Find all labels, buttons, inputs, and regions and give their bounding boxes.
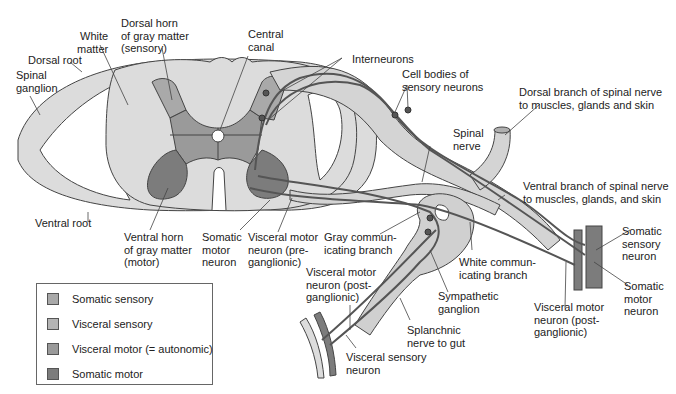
label-interneurons: Interneurons xyxy=(352,53,414,66)
central-canal xyxy=(212,130,224,142)
swatch-visceral-sensory xyxy=(47,318,59,330)
label-central-canal: Central canal xyxy=(248,28,283,53)
label-somatic-sensory-neuron-right: Somatic sensory neuron xyxy=(622,225,662,263)
label-sympathetic-ganglion: Sympathetic ganglion xyxy=(438,290,499,315)
label-ventral-horn: Ventral horn of gray matter (motor) xyxy=(124,231,192,269)
label-white-comm-branch: White commun- icating branch xyxy=(459,256,536,281)
legend-label: Visceral motor (= autonomic) xyxy=(72,343,213,355)
label-somatic-motor-neuron-right: Somatic motor neuron xyxy=(624,280,664,318)
label-visceral-motor-post-left: Visceral motor neuron (post- ganglionic) xyxy=(306,266,376,304)
legend-label: Visceral sensory xyxy=(72,318,153,330)
label-white-matter: White matter xyxy=(77,30,108,55)
legend-label: Somatic sensory xyxy=(72,293,153,305)
label-somatic-motor-neuron-left: Somatic motor neuron xyxy=(202,231,242,269)
legend-item-visceral-motor: Visceral motor (= autonomic) xyxy=(47,342,213,356)
label-dorsal-branch: Dorsal branch of spinal nerve to muscles… xyxy=(519,86,662,111)
swatch-somatic-sensory xyxy=(47,293,59,305)
legend: Somatic sensory Visceral sensory Viscera… xyxy=(36,283,213,385)
label-visceral-motor-pre: Visceral motor neuron (pre- ganglionic) xyxy=(248,231,318,269)
label-dorsal-horn: Dorsal horn of gray matter (sensory) xyxy=(121,17,189,55)
swatch-visceral-motor xyxy=(47,343,59,355)
legend-item-somatic-motor: Somatic motor xyxy=(47,367,143,381)
muscle-column-1 xyxy=(574,230,582,290)
label-spinal-nerve: Spinal nerve xyxy=(453,127,484,152)
muscle-column-2 xyxy=(586,226,602,288)
legend-label: Somatic motor xyxy=(72,368,143,380)
label-visceral-motor-post-right: Visceral motor neuron (post- ganglionic) xyxy=(534,301,604,339)
label-dorsal-root: Dorsal root xyxy=(28,54,82,67)
legend-item-visceral-sensory: Visceral sensory xyxy=(47,317,153,331)
label-splanchnic-nerve: Splanchnic nerve to gut xyxy=(407,324,465,349)
label-visceral-sensory-neuron: Visceral sensory neuron xyxy=(346,351,427,376)
swatch-somatic-motor xyxy=(47,368,59,380)
label-ventral-root: Ventral root xyxy=(35,217,91,230)
label-gray-comm-branch: Gray commun- icating branch xyxy=(324,231,397,256)
legend-item-somatic-sensory: Somatic sensory xyxy=(47,292,153,306)
label-cell-bodies-sensory: Cell bodies of sensory neurons xyxy=(402,68,483,93)
label-ventral-branch: Ventral branch of spinal nerve to muscle… xyxy=(523,180,669,205)
label-spinal-ganglion: Spinal ganglion xyxy=(16,69,58,94)
